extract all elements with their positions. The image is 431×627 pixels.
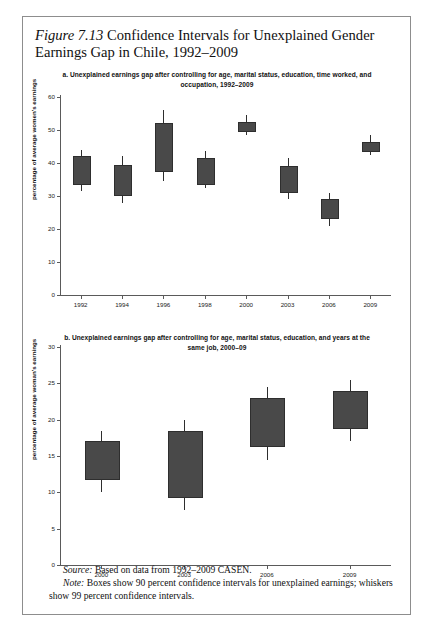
source-line: Source: Based on data from 1992–2009 CAS… [49,563,399,576]
box [333,391,368,429]
figure-page: Figure 7.13 Confidence Intervals for Une… [0,0,431,627]
box [85,441,120,479]
y-axis-tick [57,492,60,493]
box [250,398,285,447]
note-label: Note: [63,577,84,588]
y-axis-tick [57,420,60,421]
y-axis-tick [57,456,60,457]
y-axis-tick-label: 20 [34,416,55,423]
source-text: Based on data from 1992–2009 CASEN. [92,564,251,575]
y-axis-tick-label: 25 [34,379,55,386]
running-head [0,0,431,9]
y-axis-tick-label: 5 [34,525,55,532]
y-axis-tick [57,347,60,348]
figure-frame: Figure 7.13 Confidence Intervals for Une… [22,16,411,615]
note-line: Note: Boxes show 90 percent confidence i… [49,576,399,602]
y-axis-line [60,345,61,565]
y-axis-title: percentage of average woman's earnings [30,338,37,459]
y-axis-tick-label: 30 [34,343,55,350]
y-axis-tick [57,383,60,384]
y-axis-tick [57,529,60,530]
figure-notes: Source: Based on data from 1992–2009 CAS… [49,563,399,602]
y-axis-tick-label: 15 [34,452,55,459]
y-axis-tick-label: 10 [34,488,55,495]
note-text: Boxes show 90 percent confidence interva… [49,577,393,601]
panel-b-plot: 051015202530percentage of average woman'… [23,17,410,577]
box [168,431,203,498]
source-label: Source: [63,564,92,575]
